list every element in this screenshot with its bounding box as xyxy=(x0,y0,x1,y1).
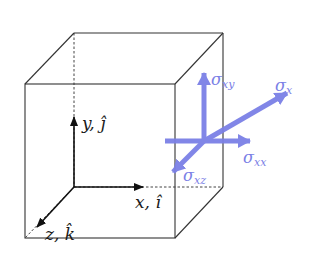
x-axis-label: x, î xyxy=(135,194,161,211)
y-axis-label: y, ĵ xyxy=(82,115,105,132)
sigma-xz-symbol: σ xyxy=(183,166,194,185)
coordinate-axes xyxy=(37,117,143,227)
sigma-x-arrow xyxy=(204,93,287,141)
sigma-x-subscript: x xyxy=(286,84,292,97)
sigma-xz-label: σxz xyxy=(183,168,206,186)
sigma-xx-label: σxx xyxy=(243,150,266,168)
z-axis-arrow xyxy=(37,187,74,227)
sigma-xx-subscript: xx xyxy=(254,156,266,169)
z-axis-label: z, k̂ xyxy=(45,226,75,243)
sigma-xz-subscript: xz xyxy=(194,174,206,187)
sigma-x-label: σx xyxy=(275,78,292,96)
sigma-xx-symbol: σ xyxy=(243,148,254,167)
sigma-xy-label: σxy xyxy=(211,72,234,90)
stress-cube-diagram xyxy=(0,0,316,259)
edge-bottom-right-depth xyxy=(175,187,223,238)
edge-top-left-depth xyxy=(25,33,74,84)
sigma-xy-subscript: xy xyxy=(222,78,234,91)
sigma-xy-symbol: σ xyxy=(211,70,222,89)
sigma-x-symbol: σ xyxy=(275,76,286,95)
